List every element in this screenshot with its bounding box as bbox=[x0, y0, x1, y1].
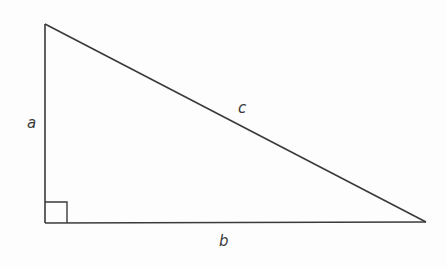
right-triangle-diagram: a c b bbox=[0, 0, 446, 267]
leg-b-line bbox=[45, 222, 426, 223]
label-a: a bbox=[27, 116, 36, 131]
label-c: c bbox=[238, 101, 246, 116]
triangle-graphic bbox=[0, 0, 446, 267]
hypotenuse-c-line bbox=[45, 24, 426, 222]
label-b: b bbox=[219, 234, 229, 249]
right-angle-marker bbox=[45, 202, 67, 223]
